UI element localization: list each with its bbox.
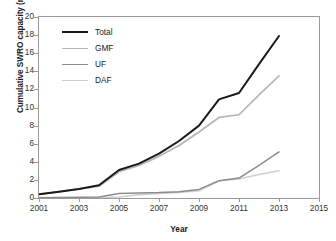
y-tick-label-14: 14 xyxy=(0,66,34,74)
y-tick-mark xyxy=(34,126,38,127)
x-tick-label-2015: 2015 xyxy=(299,203,336,213)
x-tick-mark xyxy=(319,198,320,202)
legend-item-total[interactable]: Total xyxy=(62,24,113,40)
x-tick-label-2009: 2009 xyxy=(179,203,219,213)
y-tick-label-0: 0 xyxy=(0,193,34,201)
legend-item-uf[interactable]: UF xyxy=(62,56,113,72)
y-tick-mark xyxy=(34,198,38,199)
x-tick-mark xyxy=(239,198,240,202)
y-tick-mark xyxy=(34,162,38,163)
swro-capacity-line-chart: Cumulative SWRO capacity (million m3/d) … xyxy=(0,0,336,241)
x-tick-mark xyxy=(79,198,80,202)
y-tick-mark xyxy=(34,35,38,36)
x-tick-label-2003: 2003 xyxy=(59,203,99,213)
x-tick-label-2007: 2007 xyxy=(139,203,179,213)
y-tick-mark xyxy=(34,144,38,145)
y-tick-mark xyxy=(34,71,38,72)
x-tick-label-2013: 2013 xyxy=(259,203,299,213)
legend-label: UF xyxy=(95,59,106,69)
y-tick-mark xyxy=(34,17,38,18)
legend-item-daf[interactable]: DAF xyxy=(62,72,113,88)
x-tick-mark xyxy=(199,198,200,202)
legend-swatch-daf-icon xyxy=(62,80,88,81)
x-tick-mark xyxy=(119,198,120,202)
legend-label: GMF xyxy=(95,43,113,53)
series-line-gmf xyxy=(39,76,279,195)
x-tick-mark xyxy=(39,198,40,202)
y-tick-label-2: 2 xyxy=(0,175,34,183)
legend: TotalGMFUFDAF xyxy=(62,24,113,88)
legend-label: Total xyxy=(95,27,113,37)
legend-item-gmf[interactable]: GMF xyxy=(62,40,113,56)
series-line-uf xyxy=(39,152,279,198)
y-tick-label-12: 12 xyxy=(0,84,34,92)
x-tick-label-2011: 2011 xyxy=(219,203,259,213)
y-tick-mark xyxy=(34,89,38,90)
y-tick-label-18: 18 xyxy=(0,30,34,38)
legend-swatch-uf-icon xyxy=(62,64,88,65)
y-tick-label-10: 10 xyxy=(0,103,34,111)
y-tick-mark xyxy=(34,53,38,54)
x-tick-label-2005: 2005 xyxy=(99,203,139,213)
y-tick-label-4: 4 xyxy=(0,157,34,165)
legend-swatch-gmf-icon xyxy=(62,48,88,49)
y-tick-label-6: 6 xyxy=(0,139,34,147)
y-tick-label-16: 16 xyxy=(0,48,34,56)
y-tick-label-8: 8 xyxy=(0,121,34,129)
y-tick-label-20: 20 xyxy=(0,12,34,20)
legend-label: DAF xyxy=(95,75,112,85)
x-axis-title: Year xyxy=(38,224,320,234)
x-tick-mark xyxy=(279,198,280,202)
y-tick-mark xyxy=(34,180,38,181)
x-tick-label-2001: 2001 xyxy=(19,203,59,213)
y-tick-mark xyxy=(34,108,38,109)
legend-swatch-total-icon xyxy=(62,31,88,33)
x-tick-mark xyxy=(159,198,160,202)
